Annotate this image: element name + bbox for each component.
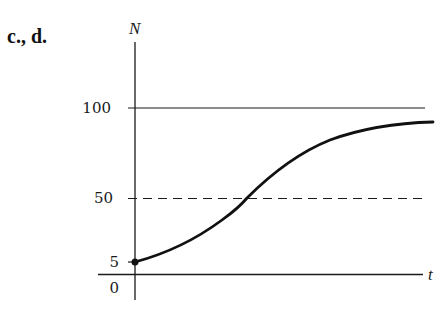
- tick-label-0: 0: [109, 279, 119, 297]
- part-label: c., d.: [7, 25, 47, 47]
- tick-label-50: 50: [94, 189, 113, 207]
- tick-label-5: 5: [109, 253, 119, 271]
- x-axis-label: t: [428, 265, 434, 284]
- logistic-chart: c., d. N t 100 50 5 0: [0, 0, 441, 315]
- logistic-curve: [135, 122, 433, 262]
- tick-label-100: 100: [82, 99, 111, 117]
- y-axis-label: N: [128, 19, 142, 38]
- initial-point-dot: [132, 259, 139, 266]
